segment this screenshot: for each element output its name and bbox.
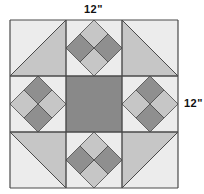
quilt-block-diagram (0, 0, 204, 194)
center-square (66, 76, 122, 132)
